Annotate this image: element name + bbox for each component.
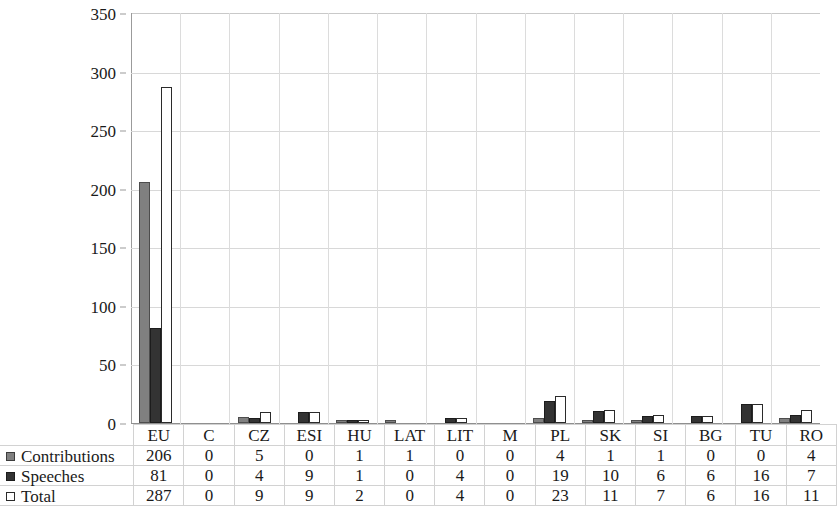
- table-cell: 0: [736, 446, 786, 466]
- bar-total-ro: [801, 410, 812, 423]
- table-cell: 1: [385, 446, 435, 466]
- bar-contributions-eu: [139, 182, 150, 423]
- table-cell: 1: [636, 446, 686, 466]
- table-cell: 9: [284, 486, 334, 506]
- bar-contributions-sk: [582, 420, 593, 423]
- bar-speeches-pl: [544, 401, 555, 423]
- legend-swatch-icon: [6, 492, 15, 501]
- table-cell: 6: [686, 466, 736, 486]
- bar-speeches-cz: [249, 418, 260, 423]
- table-cell: 1: [334, 466, 384, 486]
- table-cell: 0: [184, 466, 234, 486]
- legend-label: Total: [21, 487, 56, 506]
- table-cell: 287: [134, 486, 184, 506]
- bar-contributions-pl: [533, 418, 544, 423]
- table-cell: 1: [334, 446, 384, 466]
- bar-speeches-eu: [150, 328, 161, 423]
- bar-contributions-cz: [238, 417, 249, 423]
- bar-total-lit: [456, 418, 467, 423]
- y-axis-tick-label: 150: [91, 240, 117, 257]
- table-cell: 9: [234, 486, 284, 506]
- y-axis-tick-label: 100: [91, 298, 117, 315]
- y-axis-tick-mark: [120, 14, 126, 15]
- y-axis: 050100150200250300350: [0, 0, 126, 425]
- bar-speeches-lit: [445, 418, 456, 423]
- column-header-bg: BG: [686, 425, 736, 446]
- column-header-esi: ESI: [284, 425, 334, 446]
- table-cell: 4: [435, 486, 485, 506]
- table-cell: 11: [585, 486, 635, 506]
- table-cell: 16: [736, 466, 786, 486]
- bar-total-esi: [309, 412, 320, 423]
- bar-total-cz: [260, 412, 271, 423]
- table-cell: 9: [284, 466, 334, 486]
- legend-item-contributions: Contributions: [0, 446, 134, 466]
- table-cell: 206: [134, 446, 184, 466]
- table-cell: 6: [636, 466, 686, 486]
- table-cell: 0: [385, 466, 435, 486]
- bar-group-sk: [574, 13, 623, 423]
- table-cell: 0: [184, 446, 234, 466]
- table-cell: 0: [485, 466, 535, 486]
- column-header-cz: CZ: [234, 425, 284, 446]
- bar-speeches-si: [642, 416, 653, 423]
- bar-contributions-hu: [336, 420, 347, 423]
- legend-item-speeches: Speeches: [0, 466, 134, 486]
- table-cell: 0: [485, 446, 535, 466]
- table-cell: 4: [234, 466, 284, 486]
- table-cell: 1: [585, 446, 635, 466]
- y-axis-tick-mark: [120, 248, 126, 249]
- bar-group-ro: [771, 13, 820, 423]
- table-cell: 2: [334, 486, 384, 506]
- bar-speeches-ro: [790, 415, 801, 423]
- y-axis-tick-mark: [120, 365, 126, 366]
- column-header-c: C: [184, 425, 234, 446]
- table-cell: 0: [686, 446, 736, 466]
- bar-contributions-ro: [779, 418, 790, 423]
- chart-plot-region: 050100150200250300350: [0, 0, 837, 425]
- table-cell: 16: [736, 486, 786, 506]
- bar-speeches-hu: [347, 420, 358, 423]
- bar-group-pl: [525, 13, 574, 423]
- bar-group-bg: [672, 13, 721, 423]
- legend-label: Contributions: [21, 447, 115, 466]
- bar-group-lit: [426, 13, 475, 423]
- table-cell: 4: [786, 446, 836, 466]
- column-header-tu: TU: [736, 425, 786, 446]
- column-header-lat: LAT: [385, 425, 435, 446]
- bar-total-eu: [161, 87, 172, 423]
- bar-contributions-si: [631, 420, 642, 423]
- y-axis-tick-mark: [120, 72, 126, 73]
- table-cell: 4: [435, 466, 485, 486]
- bar-total-pl: [555, 396, 566, 423]
- bar-total-sk: [604, 410, 615, 423]
- column-header-eu: EU: [134, 425, 184, 446]
- bar-total-hu: [358, 420, 369, 423]
- table-cell: 10: [585, 466, 635, 486]
- y-axis-tick-label: 200: [91, 181, 117, 198]
- bar-group-hu: [328, 13, 377, 423]
- legend-swatch-icon: [6, 452, 15, 461]
- table-cell: 0: [284, 446, 334, 466]
- data-table: EUCCZESIHULATLITMPLSKSIBGTUROContributio…: [0, 424, 837, 506]
- y-axis-tick-label: 350: [91, 6, 117, 23]
- column-header-ro: RO: [786, 425, 836, 446]
- bar-group-tu: [722, 13, 771, 423]
- column-header-hu: HU: [334, 425, 384, 446]
- bar-group-c: [180, 13, 229, 423]
- table-header-row: EUCCZESIHULATLITMPLSKSIBGTURO: [0, 425, 837, 446]
- y-axis-tick-label: 300: [91, 64, 117, 81]
- data-table-region: EUCCZESIHULATLITMPLSKSIBGTUROContributio…: [0, 424, 837, 502]
- table-cell: 7: [786, 466, 836, 486]
- bar-total-tu: [752, 404, 763, 423]
- bars-layer: [131, 13, 820, 424]
- table-cell: 0: [184, 486, 234, 506]
- table-cell: 81: [134, 466, 184, 486]
- table-cell: 19: [535, 466, 585, 486]
- table-cell: 23: [535, 486, 585, 506]
- y-axis-tick-mark: [120, 131, 126, 132]
- bar-speeches-bg: [691, 416, 702, 423]
- legend-label: Speeches: [21, 467, 84, 486]
- table-cell: 7: [636, 486, 686, 506]
